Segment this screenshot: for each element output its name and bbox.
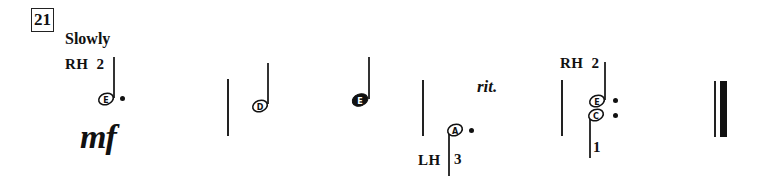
- svg-text:C: C: [593, 112, 599, 121]
- svg-text:A: A: [452, 127, 459, 136]
- svg-text:D: D: [257, 103, 264, 112]
- note-head-e-chord: E: [588, 93, 606, 108]
- note-heads-layer: E D E A E C: [0, 0, 765, 186]
- svg-text:E: E: [594, 98, 599, 107]
- svg-text:E: E: [103, 96, 108, 105]
- note-head-c-chord: C: [587, 107, 605, 122]
- note-head-a: A: [446, 122, 464, 137]
- svg-text:E: E: [357, 97, 362, 106]
- note-head-e: E: [97, 91, 115, 106]
- note-head-d: D: [251, 98, 269, 113]
- note-head-e-filled: E: [350, 92, 369, 109]
